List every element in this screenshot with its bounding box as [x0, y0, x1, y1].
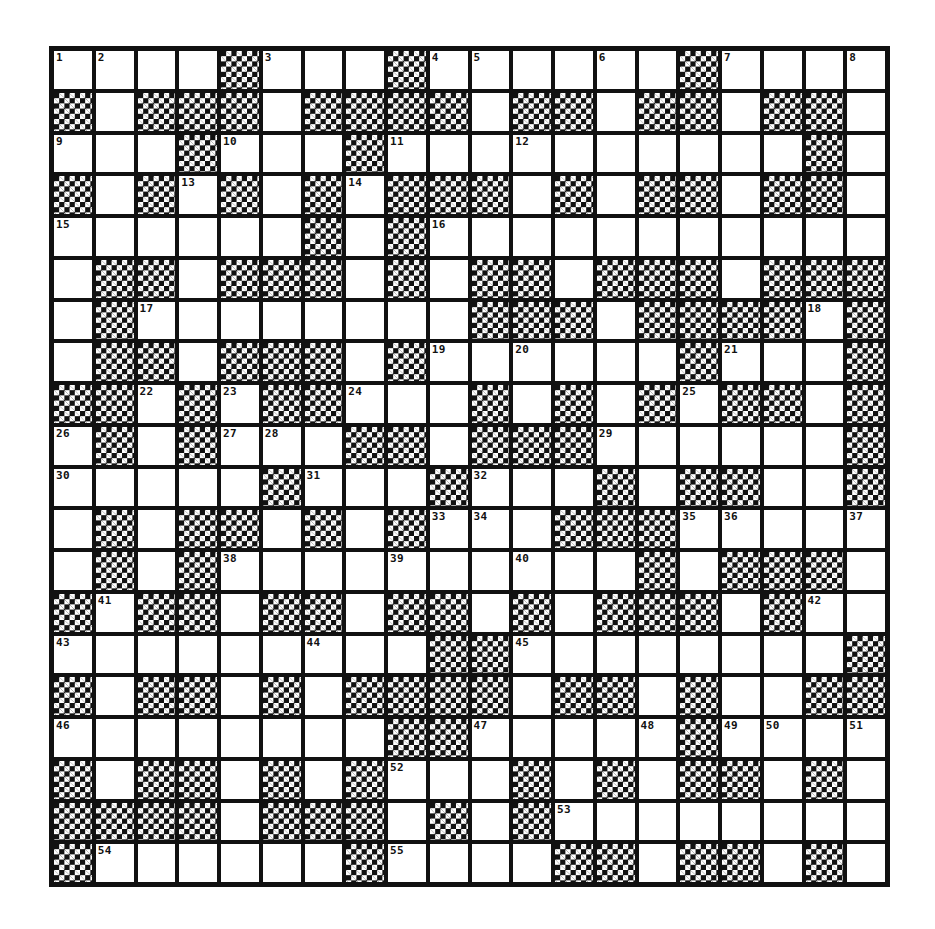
crossword-open-cell[interactable]: [595, 801, 637, 843]
crossword-open-cell[interactable]: [428, 258, 470, 300]
crossword-open-cell[interactable]: [344, 634, 386, 676]
crossword-open-cell[interactable]: [720, 91, 762, 133]
crossword-open-cell[interactable]: 4: [428, 49, 470, 91]
crossword-open-cell[interactable]: [94, 759, 136, 801]
crossword-open-cell[interactable]: [762, 842, 804, 884]
crossword-open-cell[interactable]: 12: [511, 133, 553, 175]
crossword-open-cell[interactable]: [511, 174, 553, 216]
crossword-open-cell[interactable]: [428, 842, 470, 884]
crossword-open-cell[interactable]: [553, 550, 595, 592]
crossword-open-cell[interactable]: [94, 174, 136, 216]
crossword-open-cell[interactable]: [845, 550, 887, 592]
crossword-open-cell[interactable]: [470, 341, 512, 383]
crossword-open-cell[interactable]: [678, 634, 720, 676]
crossword-open-cell[interactable]: [136, 216, 178, 258]
crossword-open-cell[interactable]: [219, 675, 261, 717]
crossword-open-cell[interactable]: [720, 675, 762, 717]
crossword-open-cell[interactable]: [219, 634, 261, 676]
crossword-open-cell[interactable]: 15: [52, 216, 94, 258]
crossword-open-cell[interactable]: 10: [219, 133, 261, 175]
crossword-open-cell[interactable]: [94, 133, 136, 175]
crossword-open-cell[interactable]: 55: [386, 842, 428, 884]
crossword-open-cell[interactable]: [845, 801, 887, 843]
crossword-open-cell[interactable]: [261, 216, 303, 258]
crossword-open-cell[interactable]: [804, 216, 846, 258]
crossword-open-cell[interactable]: 43: [52, 634, 94, 676]
crossword-open-cell[interactable]: [136, 842, 178, 884]
crossword-open-cell[interactable]: [303, 300, 345, 342]
crossword-open-cell[interactable]: [470, 133, 512, 175]
crossword-open-cell[interactable]: [470, 592, 512, 634]
crossword-open-cell[interactable]: [177, 341, 219, 383]
crossword-open-cell[interactable]: [177, 300, 219, 342]
crossword-open-cell[interactable]: [637, 759, 679, 801]
crossword-open-cell[interactable]: 20: [511, 341, 553, 383]
crossword-open-cell[interactable]: [762, 49, 804, 91]
crossword-open-cell[interactable]: [720, 258, 762, 300]
crossword-open-cell[interactable]: [511, 216, 553, 258]
crossword-open-cell[interactable]: [470, 801, 512, 843]
crossword-open-cell[interactable]: [637, 341, 679, 383]
crossword-open-cell[interactable]: 13: [177, 174, 219, 216]
crossword-open-cell[interactable]: 7: [720, 49, 762, 91]
crossword-open-cell[interactable]: 18: [804, 300, 846, 342]
crossword-open-cell[interactable]: 33: [428, 508, 470, 550]
crossword-open-cell[interactable]: [678, 425, 720, 467]
crossword-open-cell[interactable]: [136, 133, 178, 175]
crossword-open-cell[interactable]: [595, 216, 637, 258]
crossword-open-cell[interactable]: [511, 842, 553, 884]
crossword-open-cell[interactable]: [177, 634, 219, 676]
crossword-open-cell[interactable]: [261, 300, 303, 342]
crossword-open-cell[interactable]: 35: [678, 508, 720, 550]
crossword-open-cell[interactable]: [595, 341, 637, 383]
crossword-open-cell[interactable]: [845, 91, 887, 133]
crossword-open-cell[interactable]: [386, 300, 428, 342]
crossword-open-cell[interactable]: [303, 759, 345, 801]
crossword-open-cell[interactable]: [762, 675, 804, 717]
crossword-open-cell[interactable]: 54: [94, 842, 136, 884]
crossword-open-cell[interactable]: [845, 842, 887, 884]
crossword-open-cell[interactable]: [637, 634, 679, 676]
crossword-open-cell[interactable]: [845, 216, 887, 258]
crossword-open-cell[interactable]: [720, 801, 762, 843]
crossword-open-cell[interactable]: [804, 801, 846, 843]
crossword-open-cell[interactable]: [94, 675, 136, 717]
crossword-open-cell[interactable]: [386, 634, 428, 676]
crossword-open-cell[interactable]: [762, 467, 804, 509]
crossword-open-cell[interactable]: [136, 634, 178, 676]
crossword-open-cell[interactable]: 1: [52, 49, 94, 91]
crossword-open-cell[interactable]: 47: [470, 717, 512, 759]
crossword-open-cell[interactable]: [678, 801, 720, 843]
crossword-open-cell[interactable]: 41: [94, 592, 136, 634]
crossword-open-cell[interactable]: [261, 634, 303, 676]
crossword-open-cell[interactable]: [428, 425, 470, 467]
crossword-open-cell[interactable]: 25: [678, 383, 720, 425]
crossword-open-cell[interactable]: [386, 467, 428, 509]
crossword-open-cell[interactable]: [720, 174, 762, 216]
crossword-open-cell[interactable]: [595, 174, 637, 216]
crossword-open-cell[interactable]: [595, 133, 637, 175]
crossword-open-cell[interactable]: [553, 467, 595, 509]
crossword-open-cell[interactable]: [804, 49, 846, 91]
crossword-open-cell[interactable]: [136, 550, 178, 592]
crossword-open-cell[interactable]: [720, 592, 762, 634]
crossword-open-cell[interactable]: 26: [52, 425, 94, 467]
crossword-open-cell[interactable]: [177, 49, 219, 91]
crossword-open-cell[interactable]: [553, 216, 595, 258]
crossword-open-cell[interactable]: 16: [428, 216, 470, 258]
crossword-open-cell[interactable]: [344, 592, 386, 634]
crossword-open-cell[interactable]: [720, 133, 762, 175]
crossword-open-cell[interactable]: 38: [219, 550, 261, 592]
crossword-open-cell[interactable]: [177, 467, 219, 509]
crossword-open-cell[interactable]: [303, 717, 345, 759]
crossword-open-cell[interactable]: [595, 717, 637, 759]
crossword-open-cell[interactable]: [553, 759, 595, 801]
crossword-open-cell[interactable]: [470, 216, 512, 258]
crossword-open-cell[interactable]: [553, 133, 595, 175]
crossword-open-cell[interactable]: [845, 759, 887, 801]
crossword-open-cell[interactable]: [637, 467, 679, 509]
crossword-open-cell[interactable]: [261, 550, 303, 592]
crossword-open-cell[interactable]: 46: [52, 717, 94, 759]
crossword-open-cell[interactable]: 36: [720, 508, 762, 550]
crossword-open-cell[interactable]: [762, 508, 804, 550]
